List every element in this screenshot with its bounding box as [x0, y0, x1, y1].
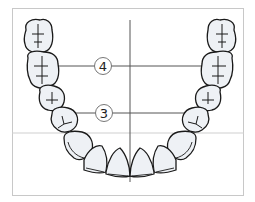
label-3: 3	[96, 105, 113, 122]
label-3-text: 3	[100, 106, 108, 121]
label-4: 4	[95, 58, 112, 75]
teeth-left	[24, 19, 130, 176]
dental-arch-diagram: 4 3	[0, 0, 255, 202]
label-4-text: 4	[99, 59, 107, 74]
teeth-right	[130, 19, 236, 176]
